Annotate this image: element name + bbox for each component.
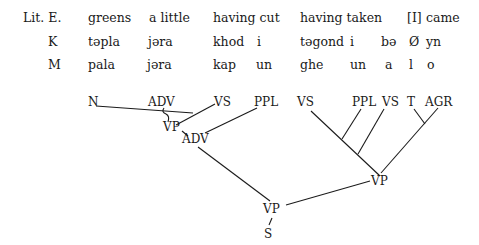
syntax-tree-branches — [0, 0, 479, 245]
tree-node-vp-right: VP — [371, 175, 388, 187]
tree-leaf-vs: VS — [214, 96, 231, 108]
tree-leaf-vs: VS — [297, 96, 314, 108]
tree-node-s: S — [264, 228, 272, 240]
tree-leaf-t: T — [407, 96, 415, 108]
tree-leaf-n: N — [88, 96, 99, 108]
tree-node-vp-root: VP — [263, 203, 280, 215]
tree-leaf-adv: ADV — [148, 96, 175, 108]
tree-node-adv: ADV — [182, 133, 209, 145]
tree-leaf-vs: VS — [382, 96, 399, 108]
tree-leaf-ppl: PPL — [352, 96, 376, 108]
tree-node-vp-left: VP — [163, 121, 180, 133]
tree-leaf-ppl: PPL — [254, 96, 278, 108]
tree-leaf-agr: AGR — [425, 96, 452, 108]
